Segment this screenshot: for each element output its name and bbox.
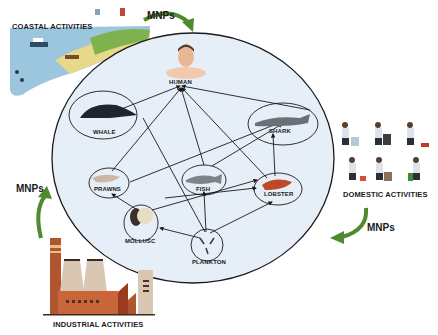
domestic-activities-image [342,122,429,181]
coastal-activities-label: COASTAL ACTIVITIES [12,22,92,31]
whale-label: WHALE [93,129,116,135]
prawns-label: PRAWNS [94,186,121,192]
coastal-mnps-label: MNPs [147,10,175,21]
lobster-label: LOBSTER [264,191,293,197]
fish-label: FISH [196,186,210,192]
human-label: HUMAN [169,79,192,85]
mollusc-label: MOLLUSC [125,238,155,244]
plankton-label: PLANKTON [192,259,226,265]
shark-label: SHARK [269,128,291,134]
industrial-mnps-label: MNPs [16,183,44,194]
industrial-activities-label: INDUSTRIAL ACTIVITIES [53,320,143,329]
domestic-activities-label: DOMESTIC ACTIVITIES [343,190,428,199]
food-web-diagram [0,0,438,335]
domestic-mnps-label: MNPs [367,222,395,233]
domestic-mnps-arrow [330,208,366,244]
